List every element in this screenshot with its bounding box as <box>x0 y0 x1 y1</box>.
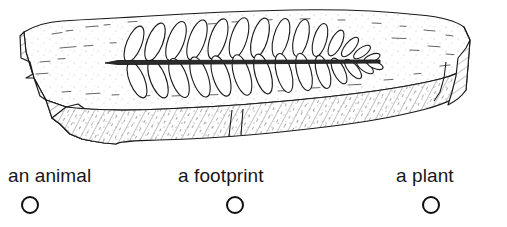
radio-button-a-footprint[interactable] <box>226 196 244 214</box>
option-a-footprint[interactable]: a footprint <box>178 160 338 227</box>
option-a-plant-label: a plant <box>396 165 454 187</box>
radio-button-an-animal[interactable] <box>21 196 39 214</box>
option-an-animal-label: an animal <box>8 165 91 187</box>
fossil-illustration <box>0 0 507 160</box>
option-an-animal[interactable]: an animal <box>8 160 168 227</box>
option-a-plant[interactable]: a plant <box>396 160 506 227</box>
fossil-drawing <box>0 0 507 160</box>
radio-button-a-plant[interactable] <box>422 196 440 214</box>
option-a-footprint-label: a footprint <box>178 165 264 187</box>
answer-options: an animal a footprint a plant <box>0 160 507 227</box>
question-panel: an animal a footprint a plant <box>0 0 507 227</box>
